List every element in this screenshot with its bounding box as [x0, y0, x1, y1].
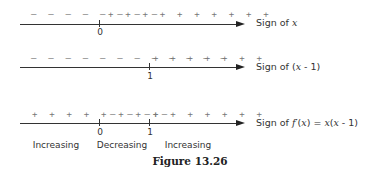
tick-label-one: 1 [147, 127, 153, 137]
positive-signs: + + + + + + + [153, 109, 265, 119]
number-line [20, 123, 238, 124]
region-label-decreasing: Decreasing [97, 140, 148, 150]
tick-label-zero: 0 [97, 127, 103, 137]
tick-label-zero: 0 [97, 27, 103, 37]
region-label-increasing: Increasing [33, 140, 79, 150]
number-line [20, 24, 238, 25]
row-label: Sign of f′(x) = x(x - 1) [256, 117, 358, 128]
row-label: Sign of x [256, 17, 297, 28]
tick-mark [99, 20, 100, 27]
arrow-right-icon [236, 64, 245, 70]
number-line [20, 67, 238, 68]
region-label-increasing: Increasing [165, 140, 211, 150]
row-label: Sign of (x - 1) [256, 61, 320, 72]
arrow-right-icon [236, 120, 245, 126]
figure-caption: Figure 13.26 [0, 155, 380, 167]
tick-mark [149, 63, 150, 70]
positive-signs: + + + + + + + [153, 53, 265, 63]
tick-label-one: 1 [147, 71, 153, 81]
tick-mark [149, 119, 150, 126]
arrow-right-icon [236, 21, 245, 27]
positive-signs: + + + + + + + + + + [108, 9, 272, 19]
tick-mark [99, 119, 100, 126]
